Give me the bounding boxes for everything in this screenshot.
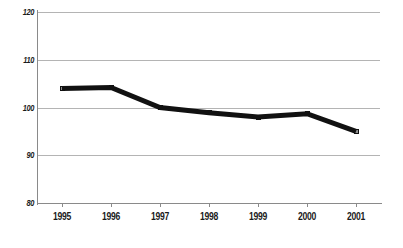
gridline-100 xyxy=(38,108,380,109)
plot-area xyxy=(38,12,380,203)
y-tick-label-110: 110 xyxy=(9,55,34,65)
data-point-1999 xyxy=(256,115,261,120)
y-tick-label-120: 120 xyxy=(9,7,34,17)
x-tick-1997 xyxy=(160,204,161,207)
x-tick-1995 xyxy=(62,204,63,207)
x-tick-1998 xyxy=(209,204,210,207)
x-tick-label-2000: 2000 xyxy=(288,211,326,223)
data-point-1996 xyxy=(109,85,114,90)
gridline-120 xyxy=(38,12,380,13)
y-tick-label-90: 90 xyxy=(9,150,34,160)
data-point-1998 xyxy=(207,110,212,115)
x-tick-2000 xyxy=(307,204,308,207)
y-axis-labels: 120 110 100 90 80 xyxy=(0,0,34,248)
x-tick-label-1995: 1995 xyxy=(43,211,81,223)
data-point-1995 xyxy=(60,86,65,91)
x-tick-label-1997: 1997 xyxy=(141,211,179,223)
x-tick-label-1999: 1999 xyxy=(239,211,277,223)
y-tick-label-100: 100 xyxy=(9,103,34,113)
line-chart: 120 110 100 90 80 1995 1996 1997 1998 19… xyxy=(0,0,403,248)
x-tick-label-1998: 1998 xyxy=(190,211,228,223)
x-tick-1996 xyxy=(111,204,112,207)
x-tick-label-2001: 2001 xyxy=(337,211,375,223)
data-point-1997 xyxy=(158,105,163,110)
data-point-2001 xyxy=(354,129,359,134)
gridline-110 xyxy=(38,60,380,61)
x-tick-1999 xyxy=(258,204,259,207)
y-tick-label-80: 80 xyxy=(9,198,34,208)
data-point-2000 xyxy=(305,111,310,116)
gridline-90 xyxy=(38,155,380,156)
x-tick-2001 xyxy=(356,204,357,207)
x-tick-label-1996: 1996 xyxy=(92,211,130,223)
